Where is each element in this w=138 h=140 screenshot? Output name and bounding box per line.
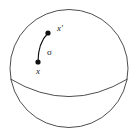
- sphere-outline: [10, 10, 128, 128]
- sphere-diagram-canvas: x x' σ: [0, 0, 138, 140]
- point-x-prime-dot: [45, 30, 50, 35]
- geodesic-sigma-label: σ: [47, 47, 52, 57]
- sphere-geodesic-figure: x x' σ: [0, 0, 138, 140]
- point-x-label: x: [35, 66, 40, 76]
- equator-arc: [11, 79, 128, 97]
- point-x-prime-label: x': [56, 23, 64, 33]
- point-x-dot: [35, 59, 40, 64]
